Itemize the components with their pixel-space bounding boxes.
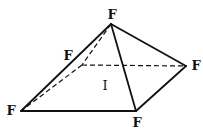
square-pyramid-diagram: F F F F F I <box>0 0 203 132</box>
solid-edge-apex-right <box>111 24 186 66</box>
label-front-right: F <box>132 115 142 130</box>
hidden-edges <box>21 24 186 111</box>
label-central-atom: I <box>102 78 107 93</box>
dashed-edge-back-left-right <box>82 65 186 66</box>
solid-edge-apex-front-right <box>111 24 136 111</box>
label-apex: F <box>107 7 117 22</box>
visible-edges <box>21 24 186 111</box>
dashed-edge-back-left-front-left <box>21 65 82 111</box>
solid-edge-apex-front-left <box>21 24 111 111</box>
label-right: F <box>191 58 201 73</box>
solid-edge-front-right-right <box>136 66 186 111</box>
label-back-left: F <box>63 48 73 63</box>
label-front-left: F <box>6 103 16 118</box>
dashed-edge-apex-back-left <box>82 24 111 65</box>
